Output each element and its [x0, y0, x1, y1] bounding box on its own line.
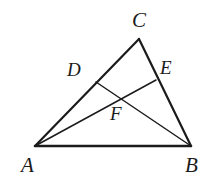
vertex-label-B: B [185, 155, 198, 176]
segment-side-AC [35, 39, 139, 146]
geometry-figure: C D E F A B [0, 0, 209, 185]
segment-side-CB [139, 39, 191, 146]
vertex-label-D: D [67, 60, 81, 79]
vertex-label-E: E [160, 58, 172, 77]
segment-cevian-AE [35, 80, 156, 146]
vertex-label-A: A [21, 155, 34, 176]
vertex-label-F: F [110, 104, 122, 123]
vertex-label-C: C [132, 10, 146, 31]
